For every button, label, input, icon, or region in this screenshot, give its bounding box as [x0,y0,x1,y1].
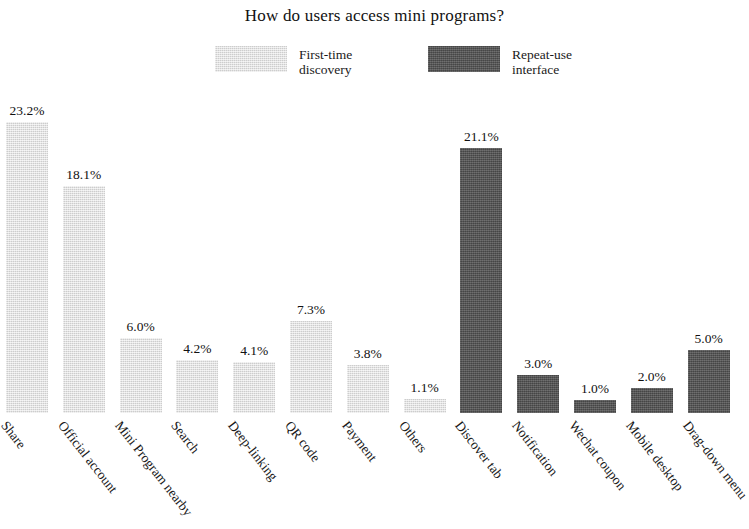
bar-value-label: 23.2% [10,103,45,119]
x-axis-tick-label: Others [395,418,430,456]
bar-value-label: 5.0% [695,331,723,347]
plot-area: 23.2%Share18.1%Official account6.0%Mini … [0,0,749,529]
bar-value-label: 1.1% [411,380,439,396]
bar-value-label: 18.1% [66,167,101,183]
bar [631,388,673,413]
bar-value-label: 21.1% [464,129,499,145]
bar-value-label: 3.0% [524,356,552,372]
bar [688,350,730,413]
x-axis-tick-label: Mobile desktop [622,418,687,494]
bar-value-label: 4.1% [240,343,268,359]
bar-value-label: 1.0% [581,381,609,397]
bar [404,399,446,413]
x-axis-tick-label: Share [0,418,29,452]
bar [290,321,332,413]
x-axis-tick-label: Notification [509,418,562,479]
x-axis-tick-label: Official account [54,418,120,496]
bar [460,148,502,413]
bar [120,338,162,413]
bar [517,375,559,413]
bar [6,122,48,413]
x-axis-tick-label: Search [168,418,203,457]
x-axis-tick-label: Wechat coupon [565,418,629,493]
bar-value-label: 2.0% [638,369,666,385]
bar [233,362,275,413]
chart-container: How do users access mini programs? First… [0,0,749,529]
x-axis-tick-label: Drag-down menu [679,418,749,503]
bar [574,400,616,413]
bar [347,365,389,413]
x-axis-tick-label: Payment [338,418,380,465]
bar-value-label: 7.3% [297,302,325,318]
bar-value-label: 3.8% [354,346,382,362]
x-axis-tick-label: Discover tab [452,418,507,482]
bar-value-label: 6.0% [127,319,155,335]
bar-value-label: 4.2% [183,341,211,357]
bar [176,360,218,413]
x-axis-tick-label: Deep-linking [225,418,281,484]
x-axis-tick-label: QR code [281,418,323,465]
bar [63,186,105,413]
